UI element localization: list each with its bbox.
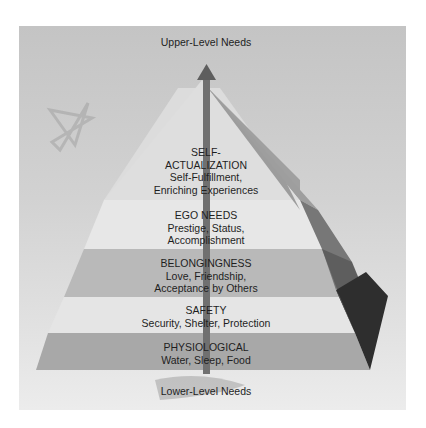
level-title: EGO NEEDS xyxy=(106,209,306,222)
level-ego-needs: EGO NEEDS Prestige, Status, Accomplishme… xyxy=(106,209,306,247)
star-doodle-icon xyxy=(50,103,92,150)
level-description: Accomplishment xyxy=(106,234,306,247)
level-description: Prestige, Status, xyxy=(106,222,306,235)
level-title: BELONGINGNESS xyxy=(106,257,306,270)
level-description: Acceptance by Others xyxy=(106,282,306,295)
level-safety: SAFETY Security, Shelter, Protection xyxy=(96,304,316,329)
level-physiological: PHYSIOLOGICAL Water, Sleep, Food xyxy=(106,341,306,366)
level-title: ACTUALIZATION xyxy=(106,159,306,172)
level-title: SELF- xyxy=(106,146,306,159)
level-title: SAFETY xyxy=(96,304,316,317)
level-description: Self-Fulfillment, xyxy=(106,171,306,184)
lower-level-needs-label: Lower-Level Needs xyxy=(106,385,306,397)
level-belongingness: BELONGINGNESS Love, Friendship, Acceptan… xyxy=(106,257,306,295)
level-description: Water, Sleep, Food xyxy=(106,354,306,367)
level-description: Security, Shelter, Protection xyxy=(96,317,316,330)
upper-level-needs-label: Upper-Level Needs xyxy=(106,36,306,48)
arrow-up-icon xyxy=(197,64,216,80)
level-description: Love, Friendship, xyxy=(106,270,306,283)
level-self-actualization: SELF- ACTUALIZATION Self-Fulfillment, En… xyxy=(106,146,306,196)
level-title: PHYSIOLOGICAL xyxy=(106,341,306,354)
level-description: Enriching Experiences xyxy=(106,184,306,197)
